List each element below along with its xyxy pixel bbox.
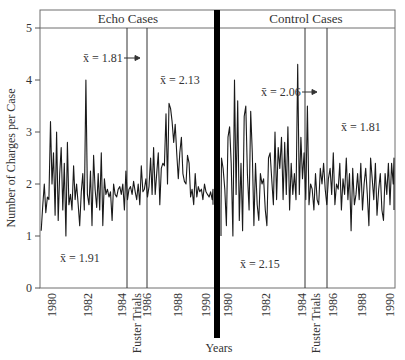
panel-title-echo: Echo Cases <box>98 11 158 26</box>
x-tick-label: 1984 <box>115 293 129 317</box>
x-axis-title: Years <box>206 341 233 355</box>
panel-divider <box>214 10 220 338</box>
x-tick-label: 1982 <box>81 293 95 317</box>
x-tick-label: 1984 <box>295 293 309 317</box>
control-fuster-label: Fuster Trials <box>309 293 323 354</box>
x-tick-label: 1980 <box>221 293 235 317</box>
y-tick-label: 4 <box>26 73 32 87</box>
control-post-mean: x̄ = 1.81 <box>341 120 381 134</box>
y-axis <box>35 28 40 288</box>
arrow-icon <box>302 90 317 95</box>
echo-x-tick-labels: 1980 1982 1984 1986 1988 1990 <box>45 293 213 317</box>
y-tick-label: 5 <box>26 21 32 35</box>
y-tick-labels: 0 1 2 3 4 5 <box>26 21 32 295</box>
echo-during-mean: x̄ = 1.81 <box>83 51 123 65</box>
x-tick-label: 1990 <box>383 293 397 317</box>
y-tick-label: 3 <box>26 125 32 139</box>
x-tick-label: 1980 <box>45 293 59 317</box>
echo-pre-mean: x̄ = 1.91 <box>60 251 100 265</box>
arrow-icon <box>124 56 140 61</box>
control-pre-mean: x̄ = 2.15 <box>240 257 280 271</box>
x-tick-label: 1990 <box>199 293 213 317</box>
control-series-line <box>221 64 394 236</box>
echo-post-mean: x̄ = 2.13 <box>160 73 200 87</box>
echo-fuster-label: Fuster Trials <box>130 293 144 354</box>
x-tick-label: 1986 <box>326 293 340 317</box>
y-tick-label: 0 <box>26 281 32 295</box>
x-tick-label: 1982 <box>259 293 273 317</box>
chart: 0 1 2 3 4 5 Number of Charges per Case E… <box>0 0 405 360</box>
x-tick-label: 1988 <box>171 293 185 317</box>
x-tick-label: 1988 <box>355 293 369 317</box>
control-during-mean: x̄ = 2.06 <box>261 85 301 99</box>
y-axis-title: Number of Charges per Case <box>4 88 18 227</box>
panel-title-control: Control Cases <box>269 11 342 26</box>
y-tick-label: 1 <box>26 229 32 243</box>
y-tick-label: 2 <box>26 177 32 191</box>
